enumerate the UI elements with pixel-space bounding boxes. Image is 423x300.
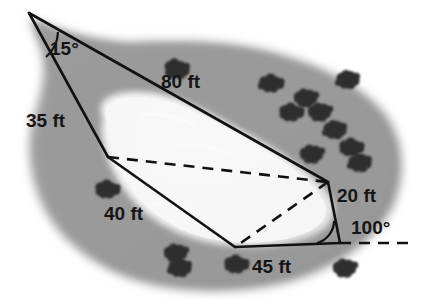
label-angle-apex: 15°: [50, 38, 79, 60]
label-side-right: 20 ft: [337, 185, 376, 207]
label-side-top: 80 ft: [161, 71, 200, 93]
label-angle-base: 100°: [351, 217, 390, 239]
label-side-lower-left: 40 ft: [104, 203, 143, 225]
pond-survey-figure: 15° 35 ft 80 ft 40 ft 20 ft 100° 45 ft: [0, 0, 423, 300]
label-side-left: 35 ft: [26, 110, 65, 132]
label-side-bottom: 45 ft: [252, 256, 291, 278]
